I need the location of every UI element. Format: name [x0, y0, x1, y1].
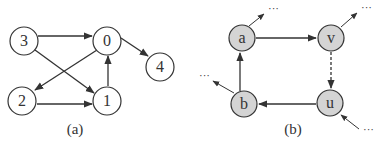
- graph-figure: 3 0 4 2 1 (a) ··· ··· ···: [0, 0, 379, 146]
- node-2: 2: [8, 87, 36, 115]
- node-3: 3: [10, 27, 38, 55]
- panel-a: 3 0 4 2 1 (a): [8, 27, 174, 138]
- caption-a: (a): [67, 121, 84, 138]
- stub-v-out: [341, 13, 357, 27]
- stub-b-out: [213, 81, 234, 93]
- stub-v-ellipsis: ···: [361, 1, 372, 13]
- svg-text:v: v: [327, 29, 335, 46]
- svg-text:0: 0: [103, 32, 111, 49]
- stub-u-in: [341, 115, 359, 129]
- svg-text:4: 4: [156, 58, 164, 75]
- node-4: 4: [146, 53, 174, 81]
- svg-text:3: 3: [20, 32, 28, 49]
- node-1: 1: [93, 87, 121, 115]
- caption-b: (b): [284, 121, 302, 138]
- svg-text:u: u: [326, 94, 334, 111]
- stub-b-ellipsis: ···: [199, 69, 210, 81]
- node-v: v: [318, 25, 344, 51]
- stub-a-out: [249, 14, 264, 26]
- stub-u-ellipsis: ···: [363, 123, 374, 135]
- node-0: 0: [93, 27, 121, 55]
- node-b: b: [231, 91, 257, 117]
- svg-text:b: b: [240, 95, 248, 112]
- node-u: u: [317, 90, 343, 116]
- edge-0-4: [121, 38, 148, 56]
- svg-text:a: a: [238, 29, 245, 46]
- stub-a-ellipsis: ···: [268, 2, 279, 14]
- svg-text:1: 1: [103, 92, 111, 109]
- svg-text:2: 2: [18, 92, 26, 109]
- panel-b: ··· ··· ··· ··· a v b u (b): [199, 1, 374, 138]
- node-a: a: [229, 25, 255, 51]
